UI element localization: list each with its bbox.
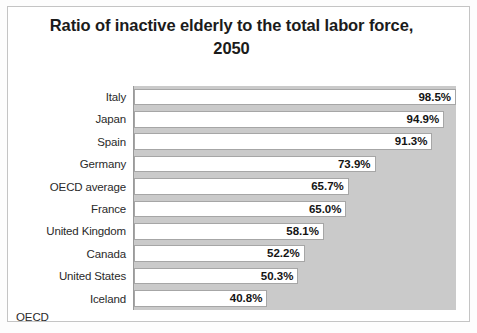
source-note: OECD [16, 311, 49, 323]
chart-title: Ratio of inactive elderly to the total l… [14, 14, 449, 60]
bar-value-united-kingdom: 58.1% [134, 223, 324, 240]
category-label-oecd-average: OECD average [0, 176, 126, 198]
bar-track-germany: 73.9% [134, 153, 456, 175]
chart-title-line-2: 2050 [14, 37, 449, 60]
table-row: Spain 91.3% [0, 131, 456, 153]
table-row: Italy 98.5% [0, 86, 456, 108]
bar-track-united-kingdom: 58.1% [134, 220, 456, 242]
bar-value-spain: 91.3% [134, 133, 432, 150]
table-row: United States 50.3% [0, 265, 456, 287]
category-label-canada: Canada [0, 243, 126, 265]
bar-value-oecd-average: 65.7% [134, 178, 349, 195]
bar-track-france: 65.0% [134, 198, 456, 220]
table-row: Canada 52.2% [0, 243, 456, 265]
chart-figure: Ratio of inactive elderly to the total l… [0, 0, 477, 333]
bar-value-france: 65.0% [134, 201, 346, 218]
category-label-spain: Spain [0, 131, 126, 153]
category-label-italy: Italy [0, 86, 126, 108]
bar-track-italy: 98.5% [134, 86, 456, 108]
table-row: Germany 73.9% [0, 153, 456, 175]
category-label-iceland: Iceland [0, 288, 126, 310]
bar-rows: Italy 98.5% Japan 94.9% Spain 91.3% Germ… [0, 86, 456, 310]
table-row: United Kingdom 58.1% [0, 220, 456, 242]
bar-value-germany: 73.9% [134, 156, 376, 173]
category-label-united-kingdom: United Kingdom [0, 220, 126, 242]
bar-value-japan: 94.9% [134, 111, 444, 128]
bar-track-iceland: 40.8% [134, 288, 456, 310]
chart-title-line-1: Ratio of inactive elderly to the total l… [14, 14, 449, 37]
table-row: OECD average 65.7% [0, 176, 456, 198]
category-label-japan: Japan [0, 108, 126, 130]
bar-track-united-states: 50.3% [134, 265, 456, 287]
bar-track-japan: 94.9% [134, 108, 456, 130]
bar-value-united-states: 50.3% [134, 268, 298, 285]
category-label-germany: Germany [0, 153, 126, 175]
table-row: Japan 94.9% [0, 108, 456, 130]
category-label-united-states: United States [0, 265, 126, 287]
table-row: Iceland 40.8% [0, 288, 456, 310]
bar-track-canada: 52.2% [134, 243, 456, 265]
bar-track-oecd-average: 65.7% [134, 176, 456, 198]
table-row: France 65.0% [0, 198, 456, 220]
bar-value-iceland: 40.8% [134, 290, 267, 307]
bar-value-canada: 52.2% [134, 245, 305, 262]
bar-value-italy: 98.5% [134, 89, 456, 106]
category-label-france: France [0, 198, 126, 220]
bar-track-spain: 91.3% [134, 131, 456, 153]
